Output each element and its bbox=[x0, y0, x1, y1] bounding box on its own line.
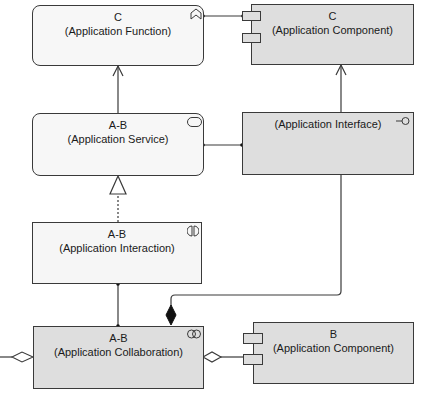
component-tab-icon bbox=[243, 333, 263, 344]
composition-diamond-icon bbox=[166, 305, 176, 325]
node-type-label: (Application Function) bbox=[33, 24, 203, 38]
node-application-component-c[interactable]: C (Application Component) bbox=[251, 4, 414, 65]
node-name: A-B bbox=[33, 118, 203, 132]
function-icon bbox=[190, 8, 202, 20]
node-name: A-B bbox=[34, 331, 203, 345]
interface-icon bbox=[396, 116, 410, 126]
node-application-interaction-ab[interactable]: A-B (Application Interaction) bbox=[32, 222, 202, 284]
node-type-label: (Application Interface) bbox=[243, 117, 413, 131]
component-tab-icon bbox=[242, 11, 261, 21]
component-tab-icon bbox=[242, 33, 261, 43]
component-tab-icon bbox=[243, 354, 263, 365]
node-name: C bbox=[33, 10, 203, 24]
service-icon bbox=[187, 117, 202, 127]
node-application-collaboration-ab[interactable]: A-B (Application Collaboration) bbox=[33, 326, 204, 389]
node-type-label: (Application Service) bbox=[33, 132, 203, 146]
interaction-icon bbox=[187, 225, 199, 237]
node-type-label: (Application Component) bbox=[252, 23, 413, 37]
node-application-function-c[interactable]: C (Application Function) bbox=[32, 5, 204, 66]
node-name: C bbox=[252, 9, 413, 23]
node-application-component-b[interactable]: B (Application Component) bbox=[253, 322, 414, 384]
node-type-label: (Application Collaboration) bbox=[34, 345, 203, 359]
realization-arrowhead-icon bbox=[110, 176, 126, 194]
aggregation-diamond-icon bbox=[203, 352, 221, 362]
aggregation-diamond-icon bbox=[12, 352, 33, 362]
node-name: A-B bbox=[33, 227, 201, 241]
node-type-label: (Application Component) bbox=[254, 341, 413, 355]
node-type-label: (Application Interaction) bbox=[33, 241, 201, 255]
collaboration-icon bbox=[186, 329, 202, 339]
node-name: B bbox=[254, 327, 413, 341]
node-application-interface[interactable]: (Application Interface) bbox=[242, 112, 414, 175]
node-application-service-ab[interactable]: A-B (Application Service) bbox=[32, 113, 204, 176]
